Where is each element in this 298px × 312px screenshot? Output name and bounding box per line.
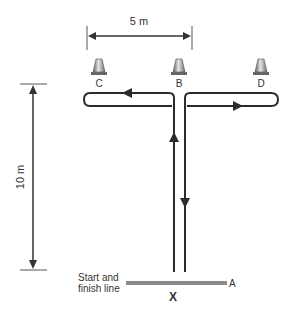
cone-c-label: C bbox=[95, 78, 102, 89]
arrow-right-icon bbox=[183, 32, 191, 40]
running-path bbox=[84, 93, 278, 272]
cone-c: C bbox=[91, 59, 107, 89]
arrow-left-icon bbox=[88, 32, 96, 40]
path-arrow-down-icon bbox=[180, 198, 190, 208]
path-arrow-right-icon bbox=[233, 101, 243, 111]
arrow-up-icon bbox=[29, 85, 37, 94]
width-label: 5 m bbox=[130, 15, 148, 27]
height-label: 10 m bbox=[14, 165, 26, 189]
height-dimension: 10 m bbox=[14, 84, 47, 270]
cone-d: D bbox=[253, 59, 269, 89]
course-diagram: 5 m 10 m C B D bbox=[0, 0, 298, 312]
end-marker-a: A bbox=[229, 278, 236, 289]
path-arrow-left-icon bbox=[122, 88, 132, 98]
start-marker-x: X bbox=[169, 290, 177, 304]
arrow-down-icon bbox=[29, 260, 37, 269]
path-arrow-up-icon bbox=[169, 132, 179, 142]
cone-b-label: B bbox=[176, 78, 183, 89]
start-label-line2: finish line bbox=[78, 283, 120, 294]
start-finish-line: Start and finish line X A bbox=[78, 272, 236, 304]
start-label-line1: Start and bbox=[78, 272, 119, 283]
cone-b: B bbox=[171, 59, 187, 89]
width-dimension: 5 m bbox=[87, 15, 192, 50]
cone-d-label: D bbox=[257, 78, 264, 89]
